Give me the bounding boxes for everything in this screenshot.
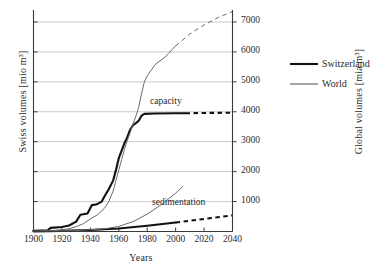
legend-swatches <box>290 64 318 84</box>
y-tick-7000: 7000 <box>241 15 273 25</box>
y-tick-2000: 2000 <box>241 165 273 175</box>
y-tick-5000: 5000 <box>241 75 273 85</box>
annotation-capacity: capacity <box>150 96 182 106</box>
x-tick-2040: 2040 <box>216 234 250 244</box>
y-tick-3000: 3000 <box>241 135 273 145</box>
y-tick-1000: 1000 <box>241 195 273 205</box>
y-tick-6000: 6000 <box>241 45 273 55</box>
gridlines <box>34 22 233 202</box>
legend-item-switzerland: Switzerland <box>322 58 370 69</box>
x-axis-label: Years <box>86 252 196 263</box>
y-axis-label-right: Global volumes [mia m³] <box>353 32 364 172</box>
chart-figure: Swiss volumes [mio m³] Global volumes [m… <box>0 0 389 276</box>
y-axis-label-left: Swiss volumes [mio m³] <box>17 32 28 172</box>
tick-marks <box>34 22 237 232</box>
annotation-sedimentation: sedimentation <box>152 197 205 207</box>
y-tick-4000: 4000 <box>241 105 273 115</box>
legend-item-world: World <box>322 78 347 89</box>
